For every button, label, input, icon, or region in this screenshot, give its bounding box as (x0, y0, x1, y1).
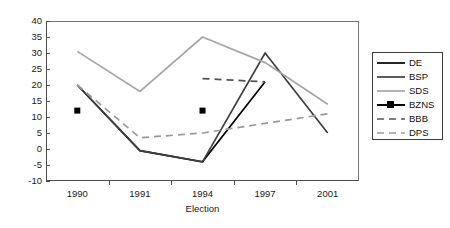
series-bbb (203, 79, 266, 82)
chart-figure: 4035302520151050-5-10 Election DEBSPSDSB… (0, 0, 450, 228)
legend-item-sds[interactable]: SDS (373, 84, 442, 98)
series-line (203, 79, 266, 82)
y-tick-mark (46, 165, 50, 166)
y-tick-mark (46, 133, 50, 134)
legend-item-bzns[interactable]: BZNS (373, 98, 442, 112)
legend-label: BZNS (406, 100, 434, 110)
legend-label: BBB (406, 114, 428, 124)
x-tick-label: 1994 (173, 188, 233, 199)
series-bzns (74, 108, 205, 114)
legend-label: BSP (406, 72, 428, 82)
legend-label: SDS (406, 86, 429, 96)
y-tick-mark (46, 21, 50, 22)
y-tick-label: 10 (14, 112, 42, 122)
legend-swatch-icon (376, 57, 406, 69)
series-de (77, 82, 265, 162)
legend-swatch-icon (376, 127, 406, 139)
legend-item-de[interactable]: DE (373, 56, 442, 70)
x-tick-mark (171, 181, 172, 185)
legend-swatch-icon (376, 99, 406, 111)
x-tick-label: 2001 (298, 188, 358, 199)
y-tick-mark (46, 181, 50, 182)
legend-item-dps[interactable]: DPS (373, 126, 442, 140)
x-tick-mark (109, 181, 110, 185)
x-tick-label: 1997 (235, 188, 295, 199)
series-line (77, 53, 327, 162)
series-bsp (77, 53, 327, 162)
series-sds (77, 37, 327, 104)
legend-item-bbb[interactable]: BBB (373, 112, 442, 126)
y-tick-label: 20 (14, 80, 42, 90)
x-axis-title: Election (46, 203, 359, 214)
legend-swatch-icon (376, 85, 406, 97)
series-marker (200, 108, 206, 114)
x-tick-mark (234, 181, 235, 185)
y-tick-label: 25 (14, 64, 42, 74)
series-marker (74, 108, 80, 114)
chart-legend: DEBSPSDSBZNSBBBDPS (372, 52, 443, 140)
legend-item-bsp[interactable]: BSP (373, 70, 442, 84)
y-tick-label: 40 (14, 16, 42, 26)
y-tick-label: 0 (14, 144, 42, 154)
y-tick-label: 35 (14, 32, 42, 42)
y-axis: 4035302520151050-5-10 (8, 0, 42, 228)
y-tick-mark (46, 37, 50, 38)
series-layer (46, 21, 359, 181)
y-tick-mark (46, 101, 50, 102)
x-tick-mark (296, 181, 297, 185)
y-tick-label: -5 (14, 160, 42, 170)
y-tick-mark (46, 117, 50, 118)
y-tick-label: 5 (14, 128, 42, 138)
legend-label: DPS (406, 128, 429, 138)
y-tick-label: 30 (14, 48, 42, 58)
series-line (77, 37, 327, 104)
legend-swatch-icon (376, 113, 406, 125)
y-tick-mark (46, 149, 50, 150)
y-tick-mark (46, 53, 50, 54)
y-tick-label: 15 (14, 96, 42, 106)
x-tick-label: 1991 (110, 188, 170, 199)
x-tick-label: 1990 (47, 188, 107, 199)
legend-swatch-icon (376, 71, 406, 83)
series-line (77, 82, 265, 162)
y-tick-label: -10 (14, 176, 42, 186)
y-tick-mark (46, 85, 50, 86)
y-tick-mark (46, 69, 50, 70)
legend-label: DE (406, 58, 422, 68)
